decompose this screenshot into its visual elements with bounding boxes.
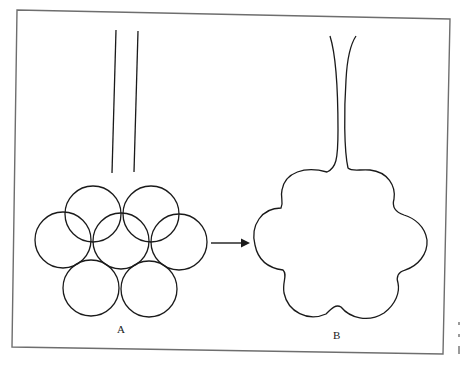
duct-line-left — [112, 30, 116, 173]
alveolus-circle — [63, 260, 119, 316]
figure-frame — [12, 10, 450, 354]
alveolar-sac-outline — [254, 36, 427, 318]
panel-a-cluster — [35, 30, 207, 317]
diagram-canvas — [0, 0, 461, 368]
panel-b-label: B — [333, 330, 340, 341]
duct-line-right — [134, 31, 138, 172]
scan-edge-mark — [458, 334, 460, 337]
alveolus-circle — [123, 186, 179, 242]
scan-edge-mark — [458, 322, 460, 325]
transition-arrow — [211, 239, 250, 248]
alveolus-circle — [121, 261, 177, 317]
alveolus-circle — [151, 214, 207, 270]
panel-a-label: A — [117, 324, 125, 335]
arrow-head-icon — [241, 239, 250, 248]
scan-edge-mark — [458, 346, 460, 354]
panel-b-sac — [254, 36, 427, 318]
